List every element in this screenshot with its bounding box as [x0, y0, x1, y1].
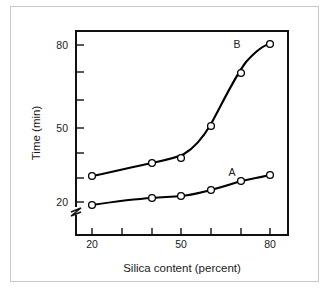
x-axis: 20 50 80 Silica content (percent): [76, 228, 288, 274]
series-a: A: [89, 166, 274, 208]
y-tick-label-20: 20: [56, 196, 68, 208]
series-a-point: [238, 178, 245, 185]
x-tick-label-50: 50: [175, 238, 187, 250]
chart-canvas: 80 50 20 Time (min) 20 50 80 Silica cont…: [0, 0, 329, 294]
x-axis-title: Silica content (percent): [123, 262, 241, 274]
series-b-point: [149, 160, 156, 167]
series-a-label: A: [228, 166, 235, 178]
y-tick-label-80: 80: [56, 39, 68, 51]
series-a-point: [149, 195, 156, 202]
plot-frame: [76, 31, 288, 235]
series-a-point: [178, 193, 185, 200]
series-b-point: [208, 123, 215, 130]
y-tick-label-50: 50: [56, 122, 68, 134]
y-axis: 80 50 20 Time (min): [30, 31, 84, 235]
x-tick-label-20: 20: [86, 238, 98, 250]
series-b-point: [238, 70, 245, 77]
x-tick-label-80: 80: [264, 238, 276, 250]
series-b-point: [267, 41, 274, 48]
chart-figure: 80 50 20 Time (min) 20 50 80 Silica cont…: [0, 0, 329, 294]
y-axis-title: Time (min): [30, 106, 42, 161]
series-b-point: [178, 155, 185, 162]
series-b-label: B: [233, 38, 240, 50]
series-b: B: [89, 38, 274, 179]
series-a-point: [89, 202, 96, 209]
series-a-point: [208, 187, 215, 194]
y-axis-break-icon: [71, 208, 81, 216]
series-b-point: [89, 173, 96, 180]
series-a-point: [267, 172, 274, 179]
